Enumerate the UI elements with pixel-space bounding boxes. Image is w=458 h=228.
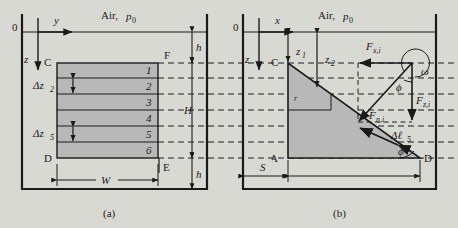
phi-force-label: ϕ (396, 81, 402, 93)
figure-svg: 0 y z Air, p 0 1 2 3 4 5 (0, 0, 458, 228)
layer-number-3: 3 (145, 96, 152, 108)
force-Fz-label: F (415, 94, 423, 106)
axis-z-label-b: z (244, 53, 250, 65)
ambient-pressure-b: p (342, 10, 349, 22)
force-Fn-label: F (368, 109, 376, 121)
ambient-pressure-a: p (125, 10, 132, 22)
layer-number-4: 4 (146, 112, 152, 124)
caption-b: (b) (333, 207, 346, 220)
dim-S-label: S (260, 161, 266, 173)
axis-z-label-a: z (23, 53, 29, 65)
z1-label: z (295, 45, 301, 57)
corner-label-C-a: C (44, 56, 51, 68)
ambient-pressure-sub-a: 0 (132, 16, 136, 25)
layer-number-1: 1 (146, 64, 152, 76)
z2-sub: 2 (331, 59, 335, 68)
caption-a: (a) (103, 207, 116, 220)
corner-label-D-a: D (44, 152, 52, 164)
layer-number-6: 6 (146, 144, 152, 156)
origin-label-a: 0 (12, 21, 18, 33)
force-Fx-label: F (365, 40, 373, 52)
force-Fz-sub: z,i (422, 100, 430, 109)
delta-z-5-label: Δz (32, 127, 44, 139)
axis-y-label: y (53, 14, 59, 26)
layer-number-2: 2 (146, 80, 152, 92)
dim-h-bottom-label: h (196, 168, 202, 180)
ambient-label-b: Air, (318, 9, 335, 21)
layer-number-5: 5 (146, 128, 152, 140)
omega-label: ω (421, 65, 429, 77)
axis-x-label: x (274, 14, 280, 26)
corner-label-D-b: D (424, 152, 432, 164)
segment-delta-l5-label: Δℓ (390, 129, 402, 141)
dim-h-top-label: h (196, 41, 202, 53)
corner-label-F-a: F (164, 49, 170, 61)
dim-H-label: H (183, 104, 193, 116)
force-Fn-sub: n,i (376, 115, 384, 124)
ambient-pressure-sub-b: 0 (349, 16, 353, 25)
corner-label-E-a: E (163, 161, 170, 173)
delta-z-5-sub: 5 (50, 133, 54, 142)
phi-wedge-label: ϕ (398, 145, 404, 157)
z2-label: z (324, 53, 330, 65)
origin-label-b: 0 (233, 21, 239, 33)
z1-sub: 1 (302, 51, 306, 60)
corner-label-C-b: C (271, 56, 278, 68)
dim-W-label: W (101, 174, 111, 186)
figure-root: 0 y z Air, p 0 1 2 3 4 5 (0, 0, 458, 228)
segment-delta-l5-sub: 5 (407, 135, 411, 144)
delta-z-2-label: Δz (32, 79, 44, 91)
force-Fx-sub: x,i (372, 46, 381, 55)
ambient-label-a: Air, (101, 9, 118, 21)
delta-z-2-sub: 2 (50, 85, 54, 94)
